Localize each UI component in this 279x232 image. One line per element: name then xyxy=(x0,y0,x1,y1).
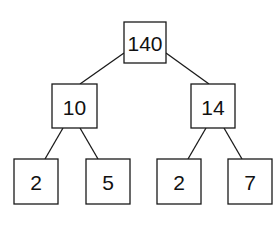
node-label: 10 xyxy=(63,96,86,119)
edge-root-to-left xyxy=(80,53,124,84)
node-label: 14 xyxy=(201,96,225,119)
tree-node-right: 14 xyxy=(191,84,235,128)
edge-right-to-right-right xyxy=(224,128,242,159)
edge-left-to-left-right xyxy=(80,128,98,159)
edge-left-to-left-left xyxy=(45,128,63,159)
node-label: 2 xyxy=(173,171,185,194)
tree-node-right-left: 2 xyxy=(157,159,201,204)
tree-node-root: 140 xyxy=(124,22,166,63)
edge-right-to-right-left xyxy=(188,128,206,159)
node-label: 2 xyxy=(30,171,42,194)
tree-node-left-right: 5 xyxy=(86,159,130,204)
nodes-group: 14010142527 xyxy=(14,22,272,204)
node-label: 140 xyxy=(127,32,162,55)
tree-node-left: 10 xyxy=(52,84,97,128)
tree-node-right-right: 7 xyxy=(228,159,272,204)
node-label: 5 xyxy=(102,171,114,194)
tree-node-left-left: 2 xyxy=(14,159,58,204)
tree-diagram: 14010142527 xyxy=(0,0,279,232)
node-label: 7 xyxy=(244,171,256,194)
edge-root-to-right xyxy=(166,53,209,84)
